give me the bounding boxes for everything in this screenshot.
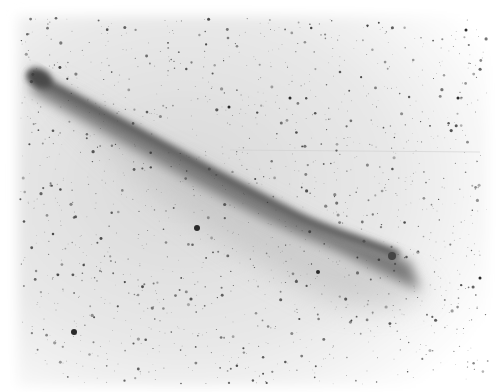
star [410, 176, 411, 177]
star [442, 61, 443, 62]
star [428, 349, 431, 352]
star [420, 305, 421, 306]
star [470, 63, 471, 64]
star [21, 118, 22, 119]
star [449, 244, 451, 246]
star [279, 219, 280, 220]
star [35, 270, 37, 272]
star [54, 64, 55, 65]
star [347, 145, 348, 146]
star [248, 97, 249, 98]
star [407, 371, 409, 373]
star [285, 261, 286, 262]
star [218, 174, 219, 175]
star [315, 160, 316, 161]
bright-star [194, 225, 200, 231]
star [87, 176, 88, 177]
star [391, 148, 392, 149]
star [154, 113, 155, 114]
star [410, 249, 411, 250]
star [244, 314, 245, 315]
star [122, 154, 123, 155]
star [416, 150, 417, 151]
star [239, 159, 240, 160]
star [150, 166, 152, 168]
star [408, 96, 410, 98]
star [362, 39, 364, 41]
star [241, 165, 242, 166]
star [214, 239, 215, 240]
star [137, 294, 140, 297]
star [480, 155, 481, 156]
star [222, 185, 223, 186]
star [83, 366, 84, 367]
star [393, 156, 396, 159]
star [146, 244, 147, 245]
star [315, 96, 316, 97]
star [347, 208, 348, 209]
star [391, 29, 392, 30]
star [100, 262, 101, 263]
star [455, 124, 458, 127]
star [211, 352, 212, 353]
star [270, 168, 271, 169]
star [222, 147, 223, 148]
star [369, 144, 370, 145]
star [336, 212, 337, 213]
star [472, 73, 475, 76]
star [104, 171, 105, 172]
star [450, 309, 453, 312]
star [441, 47, 442, 48]
star [412, 180, 413, 181]
star [155, 290, 156, 291]
star [465, 171, 467, 173]
star [368, 93, 369, 94]
star [309, 193, 310, 194]
star [95, 193, 96, 194]
star [26, 33, 28, 35]
star [372, 313, 373, 314]
star [111, 23, 112, 24]
star [295, 51, 296, 52]
star [467, 366, 468, 367]
star [384, 61, 387, 64]
star [49, 65, 50, 66]
star [242, 347, 244, 349]
star [469, 308, 470, 309]
star [337, 168, 338, 169]
star [477, 187, 478, 188]
star [348, 90, 350, 92]
star [332, 56, 333, 57]
star [186, 155, 187, 156]
star [82, 264, 84, 266]
star [304, 173, 307, 176]
star [475, 294, 477, 296]
star [80, 236, 81, 237]
star [39, 192, 42, 195]
star [159, 320, 160, 321]
star [296, 226, 297, 227]
star [99, 270, 101, 272]
star [432, 40, 434, 42]
star [396, 87, 397, 88]
star [292, 81, 293, 82]
star [314, 196, 315, 197]
star [440, 286, 441, 287]
star [66, 78, 68, 80]
star [257, 325, 258, 326]
star [224, 163, 225, 164]
star [306, 347, 307, 348]
star [319, 251, 320, 252]
star [376, 106, 377, 107]
star [189, 157, 190, 158]
star [69, 203, 72, 206]
star [423, 236, 425, 238]
star [66, 361, 67, 362]
star [210, 99, 211, 100]
star [208, 82, 209, 83]
star [474, 369, 475, 370]
star [305, 97, 307, 99]
star [245, 368, 246, 369]
star [380, 29, 381, 30]
star [287, 271, 288, 272]
